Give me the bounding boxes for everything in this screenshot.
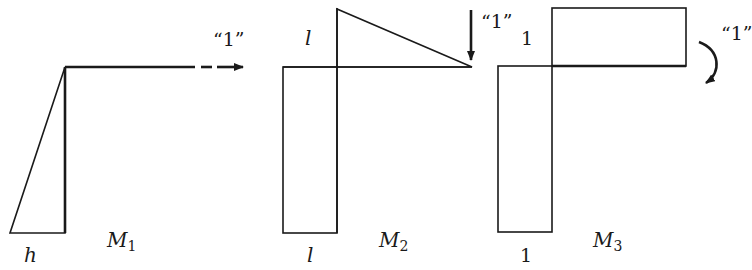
moment-rect-m2 [283, 67, 337, 233]
base-label-m1: h [24, 243, 37, 267]
moment-rect-upper-m3 [552, 8, 686, 66]
load-label-m2: “1” [481, 10, 513, 32]
diagram-m2: “1” l l M2 [283, 8, 513, 267]
bending-moment-diagrams: “1” h M1 “1” l l M2 “1” 1 1 M3 [0, 0, 752, 270]
load-label-m1: “1” [213, 28, 245, 50]
load-label-m3: “1” [721, 22, 752, 44]
diagram-title-m3: M3 [592, 228, 622, 254]
base-label-m2: l [307, 243, 313, 267]
diagram-title-m1: M1 [106, 228, 136, 254]
top-label-m3: 1 [521, 27, 533, 49]
top-label-m2: l [305, 26, 311, 50]
base-label-m3: 1 [520, 244, 532, 266]
moment-rect-lower-m3 [498, 66, 552, 232]
diagram-title-m2: M2 [378, 228, 408, 254]
moment-triangle-m2 [337, 9, 472, 67]
moment-triangle-m1 [10, 67, 65, 233]
diagram-m3: “1” 1 1 M3 [498, 8, 752, 266]
moment-arrow-icon [699, 42, 717, 83]
diagram-m1: “1” h M1 [10, 28, 245, 267]
